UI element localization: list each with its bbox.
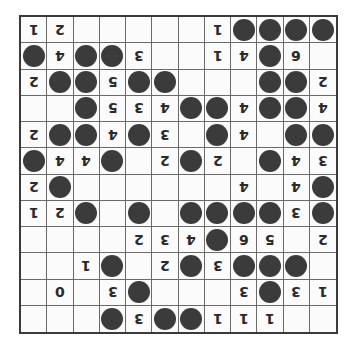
grid-cell-r10-c0[interactable] [21, 280, 47, 306]
grid-cell-r3-c9[interactable] [257, 96, 283, 122]
grid-cell-r6-c9[interactable] [257, 175, 283, 201]
grid-cell-r6-c11[interactable] [310, 175, 336, 201]
grid-cell-r6-c1[interactable] [47, 175, 73, 201]
grid-cell-r11-c8[interactable]: 1 [231, 306, 257, 332]
grid-cell-r9-c3[interactable] [100, 253, 126, 279]
grid-cell-r11-c0[interactable] [21, 306, 47, 332]
grid-cell-r10-c6[interactable] [179, 280, 205, 306]
grid-cell-r11-c6[interactable] [179, 306, 205, 332]
grid-cell-r1-c5[interactable] [152, 43, 178, 69]
grid-cell-r7-c9[interactable] [257, 201, 283, 227]
grid-cell-r3-c3[interactable]: 5 [100, 96, 126, 122]
grid-cell-r4-c9[interactable] [257, 122, 283, 148]
grid-cell-r1-c1[interactable]: 4 [47, 43, 73, 69]
grid-cell-r0-c4[interactable] [126, 17, 152, 43]
grid-cell-r4-c6[interactable] [179, 122, 205, 148]
grid-cell-r6-c6[interactable] [179, 175, 205, 201]
grid-cell-r7-c4[interactable] [126, 201, 152, 227]
grid-cell-r1-c2[interactable] [74, 43, 100, 69]
grid-cell-r7-c2[interactable] [74, 201, 100, 227]
grid-cell-r7-c8[interactable] [231, 201, 257, 227]
grid-cell-r1-c10[interactable]: 6 [284, 43, 310, 69]
grid-cell-r8-c1[interactable] [47, 227, 73, 253]
grid-cell-r1-c8[interactable]: 4 [231, 43, 257, 69]
grid-cell-r9-c4[interactable] [126, 253, 152, 279]
grid-cell-r8-c11[interactable]: 2 [310, 227, 336, 253]
grid-cell-r5-c4[interactable] [126, 148, 152, 174]
grid-cell-r1-c7[interactable]: 1 [205, 43, 231, 69]
grid-cell-r10-c1[interactable]: 0 [47, 280, 73, 306]
grid-cell-r11-c2[interactable] [74, 306, 100, 332]
grid-cell-r5-c3[interactable] [100, 148, 126, 174]
grid-cell-r0-c9[interactable] [257, 17, 283, 43]
grid-cell-r5-c11[interactable]: 3 [310, 148, 336, 174]
grid-cell-r7-c1[interactable]: 2 [47, 201, 73, 227]
grid-cell-r7-c5[interactable] [152, 201, 178, 227]
grid-cell-r5-c8[interactable] [231, 148, 257, 174]
grid-cell-r11-c7[interactable]: 1 [205, 306, 231, 332]
grid-cell-r10-c3[interactable]: 3 [100, 280, 126, 306]
grid-cell-r9-c7[interactable]: 3 [205, 253, 231, 279]
grid-cell-r11-c10[interactable] [284, 306, 310, 332]
grid-cell-r9-c1[interactable] [47, 253, 73, 279]
grid-cell-r8-c5[interactable]: 3 [152, 227, 178, 253]
grid-cell-r9-c11[interactable] [310, 253, 336, 279]
grid-cell-r3-c7[interactable] [205, 96, 231, 122]
grid-cell-r3-c4[interactable]: 3 [126, 96, 152, 122]
grid-cell-r3-c11[interactable]: 4 [310, 96, 336, 122]
grid-cell-r9-c2[interactable]: 1 [74, 253, 100, 279]
grid-cell-r7-c3[interactable] [100, 201, 126, 227]
grid-cell-r11-c11[interactable] [310, 306, 336, 332]
grid-cell-r0-c3[interactable] [100, 17, 126, 43]
grid-cell-r1-c9[interactable] [257, 43, 283, 69]
grid-cell-r10-c9[interactable] [257, 280, 283, 306]
grid-cell-r6-c0[interactable]: 2 [21, 175, 47, 201]
grid-cell-r3-c6[interactable] [179, 96, 205, 122]
grid-cell-r3-c2[interactable] [74, 96, 100, 122]
grid-cell-r1-c4[interactable]: 3 [126, 43, 152, 69]
grid-cell-r10-c8[interactable]: 3 [231, 280, 257, 306]
grid-cell-r7-c6[interactable] [179, 201, 205, 227]
grid-cell-r11-c1[interactable] [47, 306, 73, 332]
grid-cell-r4-c7[interactable] [205, 122, 231, 148]
grid-cell-r2-c9[interactable] [257, 70, 283, 96]
grid-cell-r9-c8[interactable] [231, 253, 257, 279]
grid-cell-r10-c5[interactable] [152, 280, 178, 306]
grid-cell-r2-c5[interactable] [152, 70, 178, 96]
grid-cell-r11-c4[interactable]: 3 [126, 306, 152, 332]
grid-cell-r1-c6[interactable] [179, 43, 205, 69]
grid-cell-r7-c7[interactable] [205, 201, 231, 227]
grid-cell-r4-c5[interactable]: 3 [152, 122, 178, 148]
grid-cell-r6-c10[interactable]: 4 [284, 175, 310, 201]
grid-cell-r4-c2[interactable] [74, 122, 100, 148]
grid-cell-r8-c0[interactable] [21, 227, 47, 253]
grid-cell-r4-c4[interactable] [126, 122, 152, 148]
grid-cell-r4-c8[interactable]: 4 [231, 122, 257, 148]
grid-cell-r0-c10[interactable] [284, 17, 310, 43]
grid-cell-r8-c9[interactable]: 5 [257, 227, 283, 253]
grid-cell-r2-c10[interactable] [284, 70, 310, 96]
grid-cell-r3-c8[interactable]: 4 [231, 96, 257, 122]
grid-cell-r0-c1[interactable]: 2 [47, 17, 73, 43]
grid-cell-r8-c8[interactable]: 6 [231, 227, 257, 253]
grid-cell-r1-c3[interactable] [100, 43, 126, 69]
grid-cell-r2-c11[interactable]: 2 [310, 70, 336, 96]
grid-cell-r9-c0[interactable] [21, 253, 47, 279]
grid-cell-r10-c10[interactable]: 3 [284, 280, 310, 306]
grid-cell-r8-c3[interactable] [100, 227, 126, 253]
grid-cell-r5-c7[interactable]: 2 [205, 148, 231, 174]
grid-cell-r0-c5[interactable] [152, 17, 178, 43]
grid-cell-r10-c2[interactable] [74, 280, 100, 306]
grid-cell-r4-c1[interactable] [47, 122, 73, 148]
grid-cell-r7-c0[interactable]: 1 [21, 201, 47, 227]
grid-cell-r8-c2[interactable] [74, 227, 100, 253]
grid-cell-r0-c0[interactable]: 1 [21, 17, 47, 43]
grid-cell-r6-c5[interactable] [152, 175, 178, 201]
grid-cell-r10-c11[interactable]: 1 [310, 280, 336, 306]
grid-cell-r2-c0[interactable]: 2 [21, 70, 47, 96]
grid-cell-r2-c6[interactable] [179, 70, 205, 96]
grid-cell-r3-c0[interactable] [21, 96, 47, 122]
grid-cell-r1-c0[interactable] [21, 43, 47, 69]
grid-cell-r5-c0[interactable] [21, 148, 47, 174]
grid-cell-r5-c10[interactable]: 4 [284, 148, 310, 174]
